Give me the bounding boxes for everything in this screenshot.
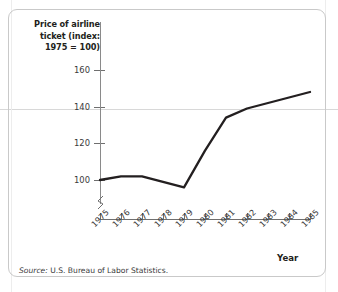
source-prefix: Source: [19,266,48,275]
source-note: Source: U.S. Bureau of Labor Statistics. [19,266,168,275]
x-axis-title: Year [277,253,298,263]
data-series-svg [0,0,338,292]
data-series-line [100,92,310,187]
source-text: U.S. Bureau of Labor Statistics. [50,266,168,275]
plot-area: 160 140 120 100 1975 1976 1977 1978 1979… [0,0,338,292]
